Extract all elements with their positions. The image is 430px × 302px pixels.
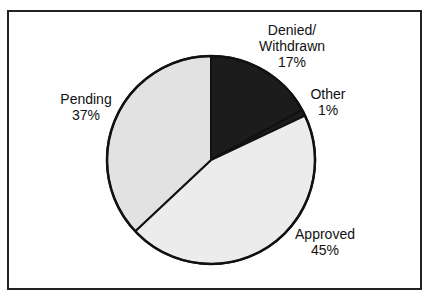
label-denied-line2: Withdrawn (252, 38, 332, 54)
label-denied-line1: Denied/ (252, 22, 332, 38)
label-approved-name: Approved (289, 226, 361, 242)
label-denied-withdrawn: Denied/ Withdrawn 17% (252, 22, 332, 70)
label-other-value: 1% (303, 102, 353, 118)
label-pending-value: 37% (52, 107, 120, 123)
label-approved-value: 45% (289, 242, 361, 258)
label-pending-name: Pending (52, 91, 120, 107)
label-pending: Pending 37% (52, 91, 120, 123)
label-denied-value: 17% (252, 54, 332, 70)
label-approved: Approved 45% (289, 226, 361, 258)
label-other-name: Other (303, 86, 353, 102)
label-other: Other 1% (303, 86, 353, 118)
pie-chart (0, 0, 430, 302)
